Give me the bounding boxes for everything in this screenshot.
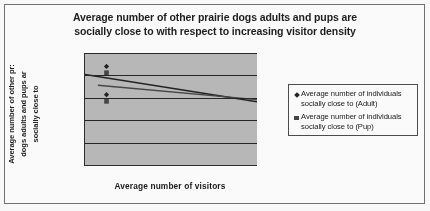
y-tick-mark bbox=[84, 98, 85, 99]
y-tick-mark bbox=[84, 75, 85, 76]
chart-title-line-2: socially close to with respect to increa… bbox=[40, 25, 390, 39]
data-point-diamond bbox=[104, 92, 109, 97]
x-tick-mark bbox=[85, 165, 86, 166]
legend-label-pup-line-2: socially close to (Pup) bbox=[301, 122, 402, 132]
plot-area: 00.511.522.51416182022 bbox=[84, 53, 257, 166]
x-tick-mark bbox=[214, 165, 215, 166]
data-point-square bbox=[104, 70, 109, 75]
chart-page: Average number of other prairie dogs adu… bbox=[0, 0, 430, 211]
chart-legend: Average number of individuals socially c… bbox=[288, 84, 418, 136]
legend-label-adult-line-2: socially close to (Adult) bbox=[301, 99, 402, 109]
plot-container: 00.511.522.51416182022 Average number of… bbox=[70, 50, 256, 170]
legend-item-adult: Average number of individuals socially c… bbox=[292, 89, 413, 108]
chart-title-line-1: Average number of other prairie dogs adu… bbox=[40, 11, 390, 25]
y-tick-mark bbox=[84, 120, 85, 121]
y-tick-mark bbox=[84, 143, 85, 144]
data-point-square bbox=[104, 99, 109, 104]
y-axis-title-line-1: Average number of other pr: bbox=[6, 44, 18, 184]
x-tick-mark bbox=[128, 165, 129, 166]
legend-label-adult-line-1: Average number of individuals bbox=[301, 89, 402, 99]
gridline-y bbox=[85, 75, 257, 76]
legend-item-pup: Average number of individuals socially c… bbox=[292, 112, 413, 131]
legend-label-pup-line-1: Average number of individuals bbox=[301, 112, 402, 122]
y-axis-title-line-3: socially close to bbox=[30, 44, 42, 184]
y-tick-mark bbox=[84, 165, 85, 166]
gridline-y bbox=[85, 53, 257, 54]
chart-title: Average number of other prairie dogs adu… bbox=[40, 11, 390, 38]
plot-svg bbox=[85, 53, 257, 165]
y-tick-mark bbox=[84, 53, 85, 54]
y-axis-title-line-2: dogs adults and pups ar bbox=[18, 44, 30, 184]
legend-label-pup: Average number of individuals socially c… bbox=[301, 112, 402, 131]
x-tick-mark bbox=[171, 165, 172, 166]
square-marker-icon bbox=[292, 115, 301, 120]
legend-label-adult: Average number of individuals socially c… bbox=[301, 89, 402, 108]
y-axis-title: Average number of other pr: dogs adults … bbox=[6, 44, 48, 184]
data-point-diamond bbox=[104, 64, 109, 69]
gridline-y bbox=[85, 143, 257, 144]
gridline-y bbox=[85, 120, 257, 121]
gridline-y bbox=[85, 98, 257, 99]
x-axis-title: Average number of visitors bbox=[84, 181, 256, 191]
diamond-marker-icon bbox=[292, 92, 301, 97]
